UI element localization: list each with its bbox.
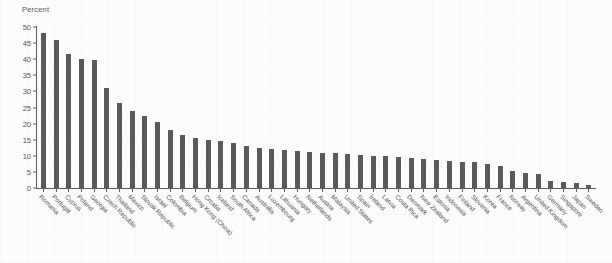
bar (383, 156, 388, 188)
chart-figure: Percent 05101520253035404550 RomaniaPort… (0, 0, 612, 263)
x-axis-label-slot: Mexico (126, 192, 139, 262)
bar-item (227, 27, 240, 188)
bar-item (557, 27, 570, 188)
y-axis-tick: 50 (18, 23, 37, 32)
bar-item (278, 27, 291, 188)
y-axis-tick-label: 25 (18, 103, 31, 112)
bar (358, 155, 363, 188)
x-axis-label-slot: Slovak Republic (139, 192, 152, 262)
x-axis-label-slot: Costa Rica (392, 192, 405, 262)
bar (498, 166, 503, 188)
x-axis-label-slot: Belgium (177, 192, 190, 262)
y-axis-tick: 40 (18, 55, 37, 64)
bar-series (37, 27, 595, 188)
bar (142, 116, 147, 188)
bar (333, 153, 338, 188)
bar-item (494, 27, 507, 188)
bar (180, 135, 185, 188)
x-axis-label-slot: Indonesia (443, 192, 456, 262)
y-axis-title: Percent (22, 5, 49, 14)
x-axis-label-slot: Portugal (50, 192, 63, 262)
bar (41, 33, 46, 188)
bar-item (354, 27, 367, 188)
bar-item (570, 27, 583, 188)
bar (54, 40, 59, 188)
bar (371, 156, 376, 188)
y-axis-tick-label: 10 (18, 151, 31, 160)
x-axis-label-slot: Estonia (430, 192, 443, 262)
bar (104, 88, 109, 188)
bar (421, 159, 426, 188)
plot-area: 05101520253035404550 (37, 27, 595, 188)
bar-item (506, 27, 519, 188)
bar (92, 60, 97, 188)
x-axis-label-slot: Romania (37, 192, 50, 262)
x-axis-label-slot: Hong Kong (China) (189, 192, 202, 262)
bar-item (265, 27, 278, 188)
bar-item (291, 27, 304, 188)
bar-item (37, 27, 50, 188)
bar (231, 143, 236, 188)
y-axis-tick: 20 (18, 119, 37, 128)
x-axis-label-slot: Ireland (367, 192, 380, 262)
x-axis-label-slot: Argentina (519, 192, 532, 262)
bar-item (519, 27, 532, 188)
bar (320, 153, 325, 188)
bar (510, 171, 515, 188)
x-axis-label-slot: Israel (151, 192, 164, 262)
bar-item (405, 27, 418, 188)
x-axis-label-slot: Germany (545, 192, 558, 262)
x-axis-label-slot: Finland (456, 192, 469, 262)
bar (155, 122, 160, 188)
bar (193, 138, 198, 188)
bar-item (430, 27, 443, 188)
bar (485, 164, 490, 188)
bar (130, 111, 135, 188)
y-axis-tick: 25 (18, 103, 37, 112)
x-axis-label-slot: Georgia (88, 192, 101, 262)
bar-item (545, 27, 558, 188)
bar (218, 141, 223, 188)
bar-item (329, 27, 342, 188)
bar (244, 146, 249, 188)
bar (460, 162, 465, 188)
y-axis-tick: 10 (18, 151, 37, 160)
x-axis-label-slot: Sweden (583, 192, 596, 262)
bar (307, 152, 312, 188)
x-axis-label-slot: South Africa (227, 192, 240, 262)
bar (117, 103, 122, 188)
bar-item (151, 27, 164, 188)
bar-item (481, 27, 494, 188)
bar-item (380, 27, 393, 188)
y-axis-tick: 35 (18, 71, 37, 80)
x-axis-label-slot: Cyprus (62, 192, 75, 262)
bar (269, 149, 274, 188)
bar (282, 150, 287, 188)
bar-item (418, 27, 431, 188)
y-axis-tick-label: 5 (18, 167, 31, 176)
y-axis-tick-label: 50 (18, 23, 31, 32)
bar-item (202, 27, 215, 188)
bar (345, 154, 350, 188)
x-axis-label-slot: Canada (240, 192, 253, 262)
bar (396, 157, 401, 188)
bar (66, 54, 71, 188)
bar (536, 174, 541, 188)
x-axis-label-slot: Japan (570, 192, 583, 262)
bar-item (456, 27, 469, 188)
bar (472, 162, 477, 188)
bar-item (367, 27, 380, 188)
x-axis-label-slot: Latvia (380, 192, 393, 262)
bar-item (113, 27, 126, 188)
x-axis-labels: RomaniaPortugalCyprusPolandGeorgiaCzech … (37, 192, 595, 262)
bar-item (316, 27, 329, 188)
x-axis-label-slot: Australia (253, 192, 266, 262)
bar-item (139, 27, 152, 188)
x-axis-label-slot: Spain (354, 192, 367, 262)
bar-item (100, 27, 113, 188)
x-axis-label-slot: Lithuania (278, 192, 291, 262)
x-axis-label-slot: Iceland (215, 192, 228, 262)
x-axis-label-slot: Denmark (405, 192, 418, 262)
bar-item (303, 27, 316, 188)
x-axis-label-slot: Netherlands (303, 192, 316, 262)
